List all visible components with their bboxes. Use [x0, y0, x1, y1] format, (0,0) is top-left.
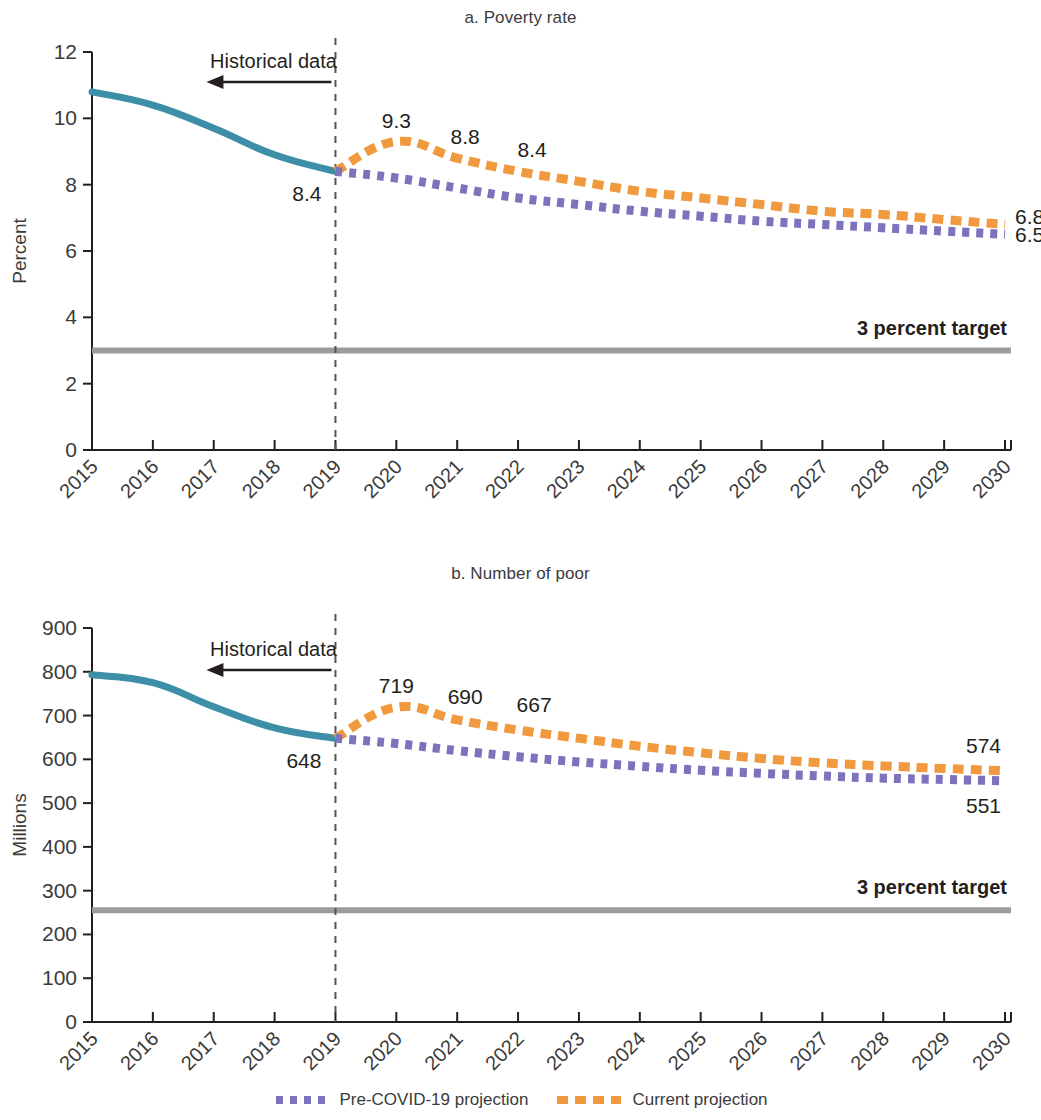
svg-text:4: 4 — [65, 305, 77, 328]
data-point-label: 719 — [379, 674, 414, 697]
x-axis-tick-label: 2016 — [116, 455, 163, 502]
x-axis-tick-label: 2023 — [542, 1027, 589, 1074]
panel-b-svg: 0100200300400500600700800900Millions2015… — [0, 560, 1041, 1080]
data-point-label: 648 — [286, 749, 321, 772]
x-axis-tick-label: 2023 — [542, 455, 589, 502]
data-point-label: 551 — [966, 794, 1001, 817]
panel-a-plot: 024681012Percent201520162017201820192020… — [0, 0, 1041, 545]
historical-data-label: Historical data — [210, 638, 338, 660]
svg-text:300: 300 — [42, 879, 77, 902]
series-line — [92, 92, 335, 172]
x-axis-tick-label: 2030 — [968, 1027, 1015, 1074]
x-axis-tick-label: 2024 — [603, 1027, 650, 1074]
series-line — [92, 675, 335, 738]
panel-number-of-poor: b. Number of poor 0100200300400500600700… — [0, 560, 1041, 1080]
svg-text:12: 12 — [54, 40, 77, 63]
target-label: 3 percent target — [857, 317, 1007, 339]
x-axis-tick-label: 2022 — [481, 455, 528, 502]
legend-item-current: Current projection — [554, 1090, 767, 1110]
svg-text:0: 0 — [65, 438, 77, 461]
x-axis-tick-label: 2017 — [177, 1027, 224, 1074]
y-axis-title: Millions — [9, 793, 30, 856]
historical-arrow-head — [206, 75, 223, 89]
x-axis-tick-label: 2029 — [907, 1027, 954, 1074]
x-axis-tick-label: 2025 — [663, 1027, 710, 1074]
poverty-projection-figure: a. Poverty rate 024681012Percent20152016… — [0, 0, 1041, 1120]
x-axis-tick-label: 2028 — [846, 455, 893, 502]
svg-text:100: 100 — [42, 966, 77, 989]
svg-text:8: 8 — [65, 173, 77, 196]
svg-text:10: 10 — [54, 106, 77, 129]
x-axis-tick-label: 2028 — [846, 1027, 893, 1074]
x-axis-tick-label: 2016 — [116, 1027, 163, 1074]
x-axis-tick-label: 2015 — [55, 455, 102, 502]
svg-text:6: 6 — [65, 239, 77, 262]
historical-arrow-head — [206, 663, 223, 677]
series-line — [335, 171, 1005, 234]
data-point-label: 574 — [966, 734, 1001, 757]
x-axis-tick-label: 2030 — [968, 455, 1015, 502]
y-axis-title: Percent — [9, 218, 30, 284]
data-point-label: 8.8 — [451, 125, 480, 148]
legend-swatch-current-icon — [554, 1094, 624, 1106]
data-point-label: 690 — [448, 685, 483, 708]
legend-label-current: Current projection — [632, 1090, 767, 1110]
data-point-label: 6.5 — [1015, 223, 1041, 246]
x-axis-tick-label: 2029 — [907, 455, 954, 502]
data-point-label: 8.4 — [292, 182, 322, 205]
data-point-label: 9.3 — [382, 109, 411, 132]
x-axis-tick-label: 2027 — [785, 1027, 832, 1074]
svg-text:600: 600 — [42, 747, 77, 770]
panel-b-plot: 0100200300400500600700800900Millions2015… — [0, 560, 1041, 1080]
x-axis-tick-label: 2026 — [724, 455, 771, 502]
figure-legend: Pre-COVID-19 projection Current projecti… — [0, 1090, 1041, 1110]
x-axis-tick-label: 2024 — [603, 455, 650, 502]
x-axis-tick-label: 2026 — [724, 1027, 771, 1074]
svg-text:0: 0 — [65, 1010, 77, 1033]
x-axis-tick-label: 2020 — [359, 1027, 406, 1074]
svg-text:500: 500 — [42, 791, 77, 814]
x-axis-tick-label: 2017 — [177, 455, 224, 502]
x-axis-tick-label: 2025 — [663, 455, 710, 502]
svg-text:800: 800 — [42, 660, 77, 683]
x-axis-tick-label: 2020 — [359, 455, 406, 502]
panel-a-svg: 024681012Percent201520162017201820192020… — [0, 0, 1041, 545]
data-point-label: 8.4 — [517, 138, 547, 161]
x-axis-tick-label: 2018 — [237, 455, 284, 502]
svg-text:400: 400 — [42, 835, 77, 858]
x-axis-tick-label: 2015 — [55, 1027, 102, 1074]
svg-text:700: 700 — [42, 704, 77, 727]
panel-poverty-rate: a. Poverty rate 024681012Percent20152016… — [0, 0, 1041, 545]
data-point-label: 667 — [517, 693, 552, 716]
x-axis-tick-label: 2019 — [298, 1027, 345, 1074]
x-axis-tick-label: 2021 — [420, 1027, 467, 1074]
legend-item-pre-covid: Pre-COVID-19 projection — [273, 1090, 528, 1110]
legend-swatch-pre-covid-icon — [273, 1094, 331, 1106]
x-axis-tick-label: 2027 — [785, 455, 832, 502]
series-line — [335, 738, 1005, 780]
x-axis-tick-label: 2022 — [481, 1027, 528, 1074]
svg-text:900: 900 — [42, 616, 77, 639]
svg-text:2: 2 — [65, 372, 77, 395]
svg-text:200: 200 — [42, 922, 77, 945]
target-label: 3 percent target — [857, 876, 1007, 898]
historical-data-label: Historical data — [210, 50, 338, 72]
x-axis-tick-label: 2019 — [298, 455, 345, 502]
x-axis-tick-label: 2018 — [237, 1027, 284, 1074]
x-axis-tick-label: 2021 — [420, 455, 467, 502]
series-line — [335, 706, 1005, 770]
legend-label-pre-covid: Pre-COVID-19 projection — [339, 1090, 528, 1110]
